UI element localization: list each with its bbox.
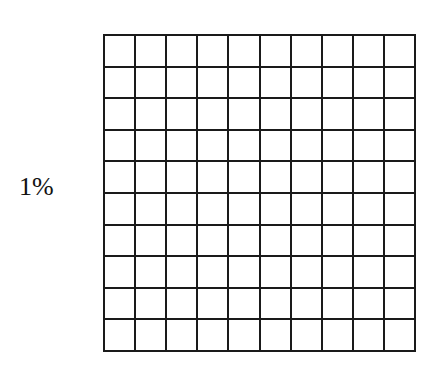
grid-cell <box>354 68 385 100</box>
grid-cell <box>167 68 198 100</box>
grid-cell <box>136 131 167 163</box>
grid-cell <box>198 36 229 68</box>
grid-cell <box>136 36 167 68</box>
grid-cell <box>136 320 167 352</box>
grid-cell <box>105 36 136 68</box>
grid-cell <box>229 131 260 163</box>
grid-cell <box>136 68 167 100</box>
grid-cell <box>167 226 198 258</box>
grid-cell <box>229 162 260 194</box>
grid-cell <box>198 131 229 163</box>
grid-cell <box>323 226 354 258</box>
grid-cell <box>198 257 229 289</box>
grid-cell <box>167 162 198 194</box>
grid-cell <box>292 131 323 163</box>
grid-cell <box>323 162 354 194</box>
grid-cell <box>292 162 323 194</box>
grid-cell <box>105 68 136 100</box>
grid-cell <box>292 320 323 352</box>
percent-label: 1% <box>19 174 54 200</box>
grid-cell <box>229 257 260 289</box>
grid-cell <box>136 99 167 131</box>
grid-cell <box>354 162 385 194</box>
grid-cell <box>354 226 385 258</box>
grid-cell <box>105 194 136 226</box>
grid-cell <box>167 320 198 352</box>
grid-cell <box>292 36 323 68</box>
grid-cell <box>136 162 167 194</box>
grid-cell <box>385 99 416 131</box>
grid-cell <box>292 226 323 258</box>
grid-cell <box>323 68 354 100</box>
grid-cell <box>229 99 260 131</box>
grid-cell <box>385 257 416 289</box>
grid-cell <box>136 289 167 321</box>
grid-cell <box>136 257 167 289</box>
grid-cell <box>105 99 136 131</box>
grid-cell <box>229 226 260 258</box>
grid-cell <box>105 289 136 321</box>
grid-cell <box>229 289 260 321</box>
grid-cell <box>198 68 229 100</box>
grid-cell <box>198 162 229 194</box>
grid-cell <box>167 131 198 163</box>
grid-cell <box>198 320 229 352</box>
grid-cell <box>354 289 385 321</box>
grid-cell <box>105 257 136 289</box>
grid-cell <box>167 194 198 226</box>
grid-cell <box>261 162 292 194</box>
grid-cell <box>292 194 323 226</box>
grid-cell <box>323 289 354 321</box>
grid-cell <box>385 162 416 194</box>
grid-cell <box>198 194 229 226</box>
grid-cell <box>385 68 416 100</box>
grid-cell <box>198 99 229 131</box>
grid-cell <box>323 131 354 163</box>
grid-cell <box>261 257 292 289</box>
grid-cell <box>229 194 260 226</box>
grid-cell <box>385 320 416 352</box>
grid-cell <box>323 194 354 226</box>
grid-cell <box>261 289 292 321</box>
grid-cell <box>354 320 385 352</box>
grid-cell <box>261 36 292 68</box>
grid-cell <box>385 36 416 68</box>
grid-cell <box>292 68 323 100</box>
grid-cell <box>261 194 292 226</box>
grid-cell <box>229 68 260 100</box>
grid-cell <box>292 257 323 289</box>
grid-cell <box>261 226 292 258</box>
grid-cell <box>385 289 416 321</box>
grid-cell <box>136 194 167 226</box>
grid-cell <box>261 320 292 352</box>
grid-cell <box>229 320 260 352</box>
grid-cell <box>167 36 198 68</box>
grid-cell <box>354 194 385 226</box>
grid-cell <box>385 226 416 258</box>
grid-cell <box>167 99 198 131</box>
grid-cell <box>105 131 136 163</box>
hundred-grid <box>103 34 416 352</box>
grid-cell <box>323 320 354 352</box>
grid-cell <box>105 162 136 194</box>
grid-cell <box>354 131 385 163</box>
grid-cell <box>261 68 292 100</box>
grid-cell <box>229 36 260 68</box>
grid-cell <box>198 226 229 258</box>
grid-cell <box>167 257 198 289</box>
grid-cell <box>354 99 385 131</box>
grid-cell <box>292 99 323 131</box>
grid-cell <box>354 257 385 289</box>
grid-cell <box>167 289 198 321</box>
grid-cell <box>323 257 354 289</box>
grid-cell <box>261 131 292 163</box>
grid-cell <box>385 131 416 163</box>
grid-cell <box>261 99 292 131</box>
grid-cell <box>105 226 136 258</box>
grid-cell <box>105 320 136 352</box>
grid-cell <box>323 36 354 68</box>
grid-cell <box>323 99 354 131</box>
grid-cell <box>136 226 167 258</box>
grid-cell <box>354 36 385 68</box>
grid-cell <box>292 289 323 321</box>
